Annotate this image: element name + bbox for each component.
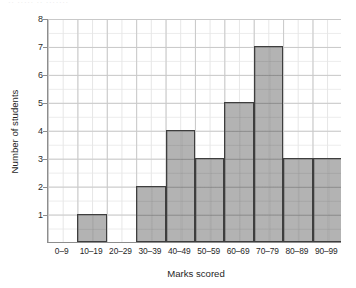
- bar: [77, 214, 106, 242]
- y-tick-mark: [43, 215, 47, 216]
- x-tick-label: 90–99: [309, 246, 344, 256]
- y-tick-label: 7: [29, 43, 43, 52]
- bar: [283, 158, 312, 242]
- x-axis-label: Marks scored: [0, 268, 356, 279]
- y-tick-mark: [43, 159, 47, 160]
- bar: [254, 46, 283, 242]
- bar: [224, 102, 253, 242]
- y-tick-mark: [43, 187, 47, 188]
- y-tick-mark: [43, 131, 47, 132]
- y-tick-label: 3: [29, 155, 43, 164]
- y-tick-label: 5: [29, 99, 43, 108]
- histogram-chart: 87654321 0–910–1920–2930–3940–4950–5960–…: [0, 0, 356, 288]
- y-axis-label: Number of students: [9, 72, 20, 192]
- y-tick-label: 8: [29, 15, 43, 24]
- y-tick-label: 1: [29, 211, 43, 220]
- bars-layer: [48, 19, 341, 242]
- plot-area: [47, 19, 341, 243]
- y-tick-mark: [43, 75, 47, 76]
- bar: [195, 158, 224, 242]
- y-tick-mark: [43, 19, 47, 20]
- y-tick-label: 4: [29, 127, 43, 136]
- bar: [166, 130, 195, 242]
- bar: [136, 186, 165, 242]
- y-tick-mark: [43, 103, 47, 104]
- y-tick-label: 2: [29, 183, 43, 192]
- y-tick-label: 6: [29, 71, 43, 80]
- bar: [313, 158, 341, 242]
- y-tick-mark: [43, 47, 47, 48]
